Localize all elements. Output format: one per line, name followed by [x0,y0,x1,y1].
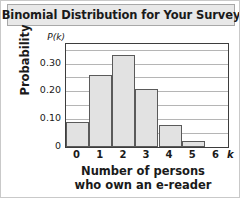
x-tick-label: 2 [113,149,133,160]
bar-k-0 [66,122,89,147]
plot-area [65,43,229,148]
x-axis-label-line-2: who own an e-reader [57,178,229,192]
bar-k-1 [89,75,112,147]
x-tick-label: 3 [136,149,156,160]
y-tick-label: 0 [23,140,61,151]
x-tick-label: 5 [182,149,202,160]
x-tick-label: 0 [67,149,87,160]
y-tick-label: 0.30 [23,57,61,68]
bar-k-4 [159,125,182,147]
x-tick-label: 6 [205,149,225,160]
gridline [66,64,228,65]
x-tick-label: 4 [159,149,179,160]
binomial-distribution-chart: Binomial Distribution for Your Survey Pr… [0,0,240,198]
chart-title-bar: Binomial Distribution for Your Survey [7,4,235,26]
chart-title: Binomial Distribution for Your Survey [2,8,240,22]
x-axis-label-line-1: Number of persons [57,164,229,178]
y-tick-label: 0.10 [23,112,61,123]
x-axis-label: Number of persons who own an e-reader [57,164,229,192]
y-tick-label: 0.20 [23,84,61,95]
x-axis-symbol: k [227,149,234,160]
gridline [66,50,228,51]
plot-inner [66,44,228,147]
x-tick-label: 1 [90,149,110,160]
bar-k-5 [182,141,205,147]
y-axis-symbol: P(k) [31,32,65,42]
bar-k-3 [135,89,158,148]
bar-k-2 [112,55,135,147]
